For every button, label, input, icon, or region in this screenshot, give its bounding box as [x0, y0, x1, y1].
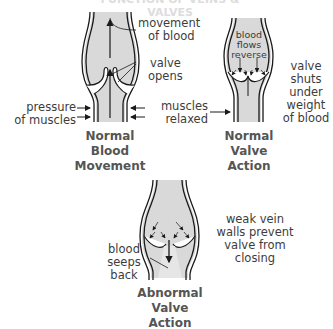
- label-muscles-relaxed: muscles relaxed: [152, 100, 208, 126]
- vein-diagrams: [0, 0, 333, 329]
- caption-normal-blood-movement: Normal Blood Movement: [70, 129, 150, 174]
- normal-blood-vein: [77, 12, 145, 122]
- label-blood-flows-reverse: blood flows reverse: [228, 30, 270, 60]
- caption-abnormal-valve-action: Abnormal Valve Action: [130, 286, 210, 329]
- label-valve-shuts: valve shuts under weight of blood: [280, 60, 332, 125]
- label-blood-seeps-back: blood seeps back: [104, 243, 144, 282]
- label-pressure-of-muscles: pressure of muscles: [14, 101, 76, 127]
- label-movement-of-blood: movement of blood: [138, 17, 200, 43]
- caption-normal-valve-action: Normal Valve Action: [218, 129, 280, 174]
- label-weak-vein-walls: weak vein walls prevent valve from closi…: [215, 213, 295, 265]
- abnormal-valve-vein: [140, 180, 199, 280]
- label-valve-opens: valve opens: [148, 57, 183, 83]
